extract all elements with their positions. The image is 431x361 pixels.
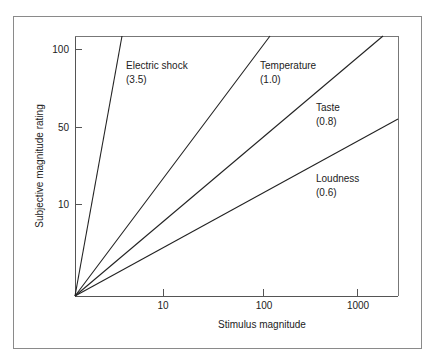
series-electric-shock-line [75, 36, 122, 296]
x-tick-label-1000: 1000 [347, 300, 370, 311]
label-electric-shock: Electric shock [126, 60, 189, 71]
y-axis-label: Subjective magnitude rating [34, 104, 45, 227]
chart: 100 50 10 10 100 1000 Stimulus magnitude… [0, 0, 431, 361]
label-loudness: Loudness [316, 173, 359, 184]
label-temperature-exponent: (1.0) [260, 74, 281, 85]
y-tick-label-50: 50 [58, 122, 70, 133]
label-electric-shock-exponent: (3.5) [126, 74, 147, 85]
series-temperature-line [75, 36, 270, 296]
x-tick-label-10: 10 [157, 300, 169, 311]
y-tick-label-10: 10 [58, 199, 70, 210]
series-loudness-line [75, 119, 398, 296]
x-axis-label: Stimulus magnitude [218, 319, 306, 330]
y-tick-label-100: 100 [52, 44, 69, 55]
x-tick-label-100: 100 [256, 300, 273, 311]
outer-frame [14, 17, 422, 349]
series-taste-line [75, 36, 383, 296]
label-loudness-exponent: (0.6) [316, 187, 337, 198]
label-taste: Taste [316, 102, 340, 113]
label-temperature: Temperature [260, 60, 317, 71]
label-taste-exponent: (0.8) [316, 116, 337, 127]
